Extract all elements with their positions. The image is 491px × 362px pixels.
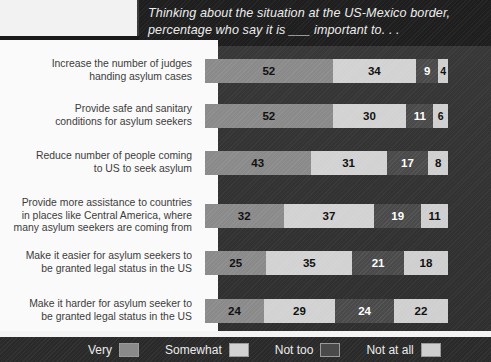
- legend-item[interactable]: Somewhat: [165, 343, 249, 357]
- bar-segment-not-at-all: 22: [394, 299, 448, 323]
- top-left-white-panel: [0, 0, 137, 36]
- bar-segment-not-at-all: 18: [404, 251, 448, 275]
- bar-segment-not-at-all: 6: [433, 104, 448, 128]
- bar-segment-very: 32: [205, 204, 284, 228]
- chart-screenshot: Thinking about the situation at the US-M…: [0, 0, 491, 362]
- row-label: Reduce number of people coming to US to …: [0, 150, 205, 175]
- chart-row: Increase the number of judges handing as…: [0, 58, 491, 83]
- bar-segment-somewhat: 37: [284, 204, 375, 228]
- legend-swatch: [320, 343, 340, 357]
- page-title: Thinking about the situation at the US-M…: [148, 5, 488, 39]
- stacked-bar-chart: Increase the number of judges handing as…: [0, 40, 491, 331]
- bar-segment-very: 43: [205, 151, 311, 175]
- bar-segment-very: 52: [205, 59, 333, 83]
- bar-segment-somewhat: 35: [266, 251, 352, 275]
- bar-track: 523494: [205, 59, 448, 83]
- legend-swatch: [119, 343, 139, 357]
- bar-segment-not-too: 24: [335, 299, 394, 323]
- chart-row: Provide more assistance to countries in …: [0, 197, 491, 235]
- legend-label: Somewhat: [165, 343, 222, 357]
- bar-segment-not-at-all: 4: [438, 59, 448, 83]
- legend-swatch: [421, 343, 441, 357]
- bar-segment-not-too: 17: [387, 151, 429, 175]
- chart-row: Make it harder for asylum seeker to be g…: [0, 298, 491, 323]
- chart-legend: VerySomewhatNot tooNot at all: [0, 337, 491, 362]
- bar-segment-somewhat: 31: [311, 151, 387, 175]
- bar-segment-somewhat: 30: [333, 104, 407, 128]
- bar-segment-not-too: 11: [406, 104, 433, 128]
- legend-swatch: [229, 343, 249, 357]
- chart-row: Provide safe and sanitary conditions for…: [0, 103, 491, 128]
- bar-track: 5230116: [205, 104, 448, 128]
- bar-track: 24292422: [205, 299, 448, 323]
- bar-track: 32371911: [205, 204, 448, 228]
- bar-segment-not-too: 21: [352, 251, 404, 275]
- bar-segment-not-at-all: 8: [428, 151, 448, 175]
- bar-segment-somewhat: 29: [264, 299, 335, 323]
- legend-item[interactable]: Very: [88, 343, 139, 357]
- bar-segment-not-too: 19: [374, 204, 421, 228]
- row-label: Provide safe and sanitary conditions for…: [0, 103, 205, 128]
- row-label: Provide more assistance to countries in …: [0, 197, 205, 235]
- legend-label: Very: [88, 343, 112, 357]
- bar-segment-somewhat: 34: [333, 59, 416, 83]
- chart-row: Make it easier for asylum seekers to be …: [0, 250, 491, 275]
- row-label: Make it easier for asylum seekers to be …: [0, 250, 205, 275]
- bar-track: 4331178: [205, 151, 448, 175]
- row-label: Increase the number of judges handing as…: [0, 58, 205, 83]
- bar-segment-not-at-all: 11: [421, 204, 448, 228]
- legend-label: Not at all: [366, 343, 413, 357]
- bar-track: 25352118: [205, 251, 448, 275]
- chart-row: Reduce number of people coming to US to …: [0, 150, 491, 175]
- legend-label: Not too: [275, 343, 314, 357]
- bar-segment-not-too: 9: [416, 59, 438, 83]
- bar-segment-very: 52: [205, 104, 333, 128]
- bar-segment-very: 24: [205, 299, 264, 323]
- legend-item[interactable]: Not at all: [366, 343, 440, 357]
- legend-item[interactable]: Not too: [275, 343, 341, 357]
- bar-segment-very: 25: [205, 251, 266, 275]
- row-label: Make it harder for asylum seeker to be g…: [0, 298, 205, 323]
